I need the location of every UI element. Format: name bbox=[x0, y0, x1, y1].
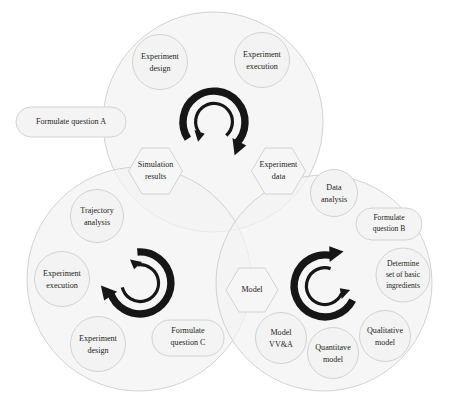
node-determine-ingredients[interactable]: Determine set of basic ingredients bbox=[376, 248, 430, 302]
node-label: Simulation bbox=[138, 160, 174, 169]
node-label: set of basic bbox=[386, 270, 421, 279]
node-label: data bbox=[272, 172, 286, 181]
node-label: analysis bbox=[84, 218, 110, 227]
node-label: ingredients bbox=[386, 281, 420, 290]
node-experiment-design-top[interactable]: Experiment design bbox=[133, 35, 188, 90]
node-label: design bbox=[87, 346, 108, 355]
node-label: Qualitative bbox=[367, 326, 403, 335]
node-label: Experiment bbox=[79, 334, 118, 343]
node-label: analysis bbox=[321, 195, 347, 204]
node-label: model bbox=[375, 338, 396, 347]
node-data-analysis[interactable]: Data analysis bbox=[311, 170, 358, 217]
node-label: Data bbox=[326, 183, 342, 192]
pill-label: question B bbox=[373, 224, 406, 233]
node-label: Experiment bbox=[243, 50, 282, 59]
node-label: Model bbox=[270, 328, 292, 337]
pill-formulate-question-b[interactable]: Formulate question B bbox=[356, 208, 422, 240]
pill-label: Formulate bbox=[373, 213, 405, 222]
node-trajectory-analysis[interactable]: Trajectory analysis bbox=[71, 190, 124, 243]
node-label: Trajectory bbox=[80, 206, 114, 215]
node-label: Model bbox=[241, 285, 263, 294]
node-label: VV&A bbox=[269, 340, 293, 349]
node-qualitative-model[interactable]: Qualitative model bbox=[360, 311, 411, 362]
pill-formulate-question-a[interactable]: Formulate question A bbox=[16, 107, 126, 137]
node-label: Experiment bbox=[141, 52, 180, 61]
node-experiment-execution-top[interactable]: Experiment execution bbox=[235, 33, 290, 88]
pill-label: Formulate question A bbox=[36, 117, 106, 126]
node-label: execution bbox=[246, 62, 277, 71]
node-experiment-design-left[interactable]: Experiment design bbox=[71, 317, 126, 372]
node-label: Experiment bbox=[260, 160, 299, 169]
node-experiment-execution-left[interactable]: Experiment execution bbox=[35, 252, 90, 307]
pill-label: Formulate bbox=[171, 326, 205, 335]
node-label: model bbox=[323, 355, 344, 364]
diagram-canvas: Experiment design Experiment execution S… bbox=[0, 0, 458, 404]
node-label: Quantitave bbox=[315, 343, 351, 352]
node-quantitave-model[interactable]: Quantitave model bbox=[308, 328, 359, 379]
node-model-vva[interactable]: Model VV&A bbox=[256, 313, 307, 364]
pill-label: question C bbox=[171, 338, 206, 347]
node-label: Experiment bbox=[43, 269, 82, 278]
pill-formulate-question-c[interactable]: Formulate question C bbox=[152, 320, 224, 356]
node-label: execution bbox=[46, 281, 77, 290]
node-label: Determine bbox=[387, 259, 420, 268]
node-label: results bbox=[145, 172, 166, 181]
node-label: design bbox=[149, 64, 170, 73]
